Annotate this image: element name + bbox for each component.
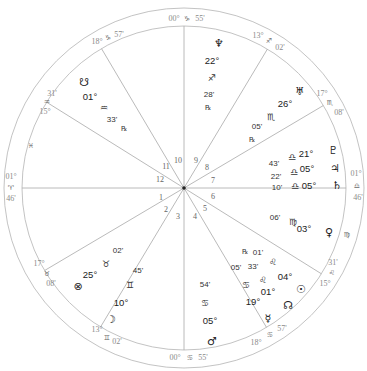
- neptune-sign-icon: ♐: [208, 73, 216, 83]
- neptune-degree: 22°: [205, 55, 220, 66]
- cusp-sign-icon-4: ♋: [187, 354, 193, 362]
- cusp-sign-icon-11: ♑: [105, 34, 111, 42]
- natal-chart-wheel: 01°♈46'17°♉08'13°♊02'00°♋55'18°♋57'15°♌3…: [0, 0, 367, 371]
- cusp-minute-3: 02': [112, 337, 122, 346]
- uranus-retrograde-icon: ℞: [249, 136, 255, 143]
- uranus-icon: ♅: [295, 85, 305, 98]
- intercepted-sign-icon: ♓: [28, 142, 34, 150]
- cusp-sign-icon-6: ♌: [329, 269, 335, 277]
- planet-sun: ☉04°♌33': [248, 257, 306, 296]
- cusp-minute-2: 08': [46, 279, 56, 288]
- moon-minute: 45': [133, 266, 144, 275]
- north-node-icon: ☊: [283, 299, 293, 312]
- cusp-sign-icon-2: ♉: [44, 270, 50, 278]
- pluto-minute: 43': [269, 159, 280, 168]
- mercury-minute: 05': [231, 263, 242, 272]
- jupiter-degree: 05°: [300, 163, 315, 174]
- south-node-degree: 01°: [83, 91, 98, 102]
- cusp-sign-icon-8: ♏: [327, 99, 334, 107]
- planet-moon: ☽10°♊45': [106, 266, 144, 326]
- neptune-minute: 28': [204, 90, 215, 99]
- cusp-minute-12: 31': [47, 89, 57, 98]
- cusp-minute-11: 57': [114, 30, 124, 39]
- venus-sign-icon: ♍: [289, 217, 297, 227]
- cusp-degree-9: 13°: [252, 31, 263, 40]
- saturn-minute: 10': [272, 183, 283, 192]
- house-number-11: 11: [162, 162, 170, 171]
- mercury-degree: 19°: [246, 296, 261, 307]
- planet-placements: ☋01°♒33'℞♆22°♐28'℞♅26°♏05'℞♇21°♎43'♃05°♎…: [73, 37, 342, 348]
- house-number-3: 3: [176, 212, 180, 221]
- south-node-retrograde-icon: ℞: [121, 125, 127, 132]
- cusp-degree-4: 00°: [169, 353, 180, 362]
- cusp-sign-icon-1: ♈: [8, 184, 14, 192]
- cusp-line-2: [45, 188, 184, 271]
- planet-saturn: ♄05°♎10': [272, 179, 342, 192]
- planet-uranus: ♅26°♏05'℞: [249, 85, 305, 143]
- cusp-line-9: [184, 49, 267, 188]
- planet-part-of-fortune: ⊗25°♉02': [73, 246, 123, 293]
- saturn-sign-icon: ♎: [291, 181, 299, 191]
- north-node-degree: 01°: [261, 286, 276, 297]
- moon-icon: ☽: [106, 313, 116, 326]
- pluto-sign-icon: ♎: [288, 152, 296, 162]
- cusp-minute-9: 02': [275, 43, 285, 52]
- cusp-degree-8: 17°: [316, 89, 327, 98]
- jupiter-sign-icon: ♎: [290, 167, 298, 177]
- cusp-minute-5: 57': [277, 324, 287, 333]
- south-node-icon: ☋: [79, 76, 89, 89]
- house-number-10: 10: [174, 156, 182, 165]
- mars-degree: 05°: [203, 315, 218, 326]
- uranus-minute: 05': [252, 122, 263, 131]
- house-number-6: 6: [211, 192, 215, 201]
- cusp-degree-3: 13°: [91, 325, 102, 334]
- cusp-sign-icon-10: ♑: [184, 15, 190, 23]
- part-of-fortune-minute: 02': [113, 246, 124, 255]
- sun-degree: 04°: [278, 271, 293, 282]
- planet-south-node: ☋01°♒33'℞: [79, 76, 127, 132]
- mars-minute: 54': [200, 280, 211, 289]
- cusp-sign-icon-12: ♒: [44, 98, 50, 106]
- house-number-12: 12: [156, 175, 164, 184]
- saturn-degree: 05°: [302, 180, 317, 191]
- north-node-sign-icon: ♌: [259, 275, 267, 285]
- pluto-icon: ♇: [328, 144, 338, 157]
- house-number-5: 5: [203, 204, 207, 213]
- venus-minute: 06': [270, 213, 281, 222]
- house-number-1: 1: [159, 193, 163, 202]
- cusp-degree-5: 18°: [250, 338, 261, 347]
- cusp-minute-4: 55': [198, 353, 208, 362]
- uranus-sign-icon: ♏: [267, 112, 275, 122]
- cusp-line-8: [184, 106, 323, 189]
- sun-icon: ☉: [296, 283, 306, 296]
- venus-degree: 03°: [297, 223, 312, 234]
- cusp-sign-icon-5: ♋: [267, 331, 273, 339]
- cusp-degree-12: 15°: [39, 107, 50, 116]
- cusp-degree-11: 18°: [91, 37, 102, 46]
- neptune-icon: ♆: [214, 37, 224, 50]
- sun-minute: 33': [248, 262, 259, 271]
- jupiter-minute: 22': [271, 172, 282, 181]
- moon-sign-icon: ♊: [126, 280, 134, 290]
- cusp-degree-6: 15°: [319, 279, 330, 288]
- venus-icon: ♀: [325, 226, 333, 239]
- house-number-8: 8: [205, 163, 209, 172]
- cusp-minute-8: 08': [334, 108, 344, 117]
- mercury-sign-icon: ♋: [242, 280, 250, 290]
- part-of-fortune-sign-icon: ♉: [102, 259, 110, 269]
- sun-sign-icon: ♌: [269, 257, 277, 267]
- cusp-minute-10: 55': [195, 14, 205, 23]
- south-node-minute: 33': [107, 115, 118, 124]
- cusp-minute-6: 31': [328, 258, 338, 267]
- mars-icon: ♂: [207, 335, 217, 348]
- pluto-degree: 21°: [299, 148, 314, 159]
- south-node-sign-icon: ♒: [100, 103, 108, 113]
- mercury-icon: ☿: [265, 312, 272, 325]
- cusp-sign-icon-3: ♊: [104, 334, 110, 342]
- jupiter-icon: ♃: [330, 162, 340, 175]
- cusp-degree-1: 01°: [5, 172, 16, 181]
- intercepted-sign-icon: ♍: [344, 231, 350, 239]
- cusp-degree-7: 01°: [350, 169, 361, 178]
- cusp-sign-icon-9: ♐: [266, 37, 272, 45]
- neptune-retrograde-icon: ℞: [205, 104, 211, 111]
